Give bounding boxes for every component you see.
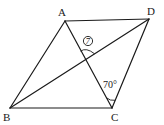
vertex-label-a: A [58,6,66,18]
geometry-diagram: 7 70° A D B C [0,0,164,125]
diagonal-bd [10,19,149,108]
side-ad [65,19,149,21]
vertex-label-b: B [3,111,10,123]
diagonal-ac [65,21,112,108]
vertex-label-c: C [111,111,118,123]
angle-dca-label: 70° [103,79,117,90]
side-ba [10,21,65,108]
side-dc [112,19,149,108]
vertex-label-d: D [147,5,155,17]
angle-7-label: 7 [86,36,91,46]
